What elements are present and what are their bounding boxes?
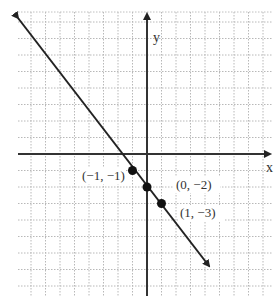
point-label: (1, −3) xyxy=(180,205,216,220)
x-axis-label: x xyxy=(266,160,273,175)
y-axis-label: y xyxy=(153,30,160,45)
point-marker xyxy=(128,166,137,175)
point-marker xyxy=(143,183,152,192)
coordinate-graph: x y (−1, −1)(0, −2)(1, −3) xyxy=(0,0,278,296)
point-label: (0, −2) xyxy=(176,177,212,192)
axes: x y xyxy=(18,14,273,296)
point-marker xyxy=(157,199,166,208)
point-label: (−1, −1) xyxy=(82,168,125,183)
